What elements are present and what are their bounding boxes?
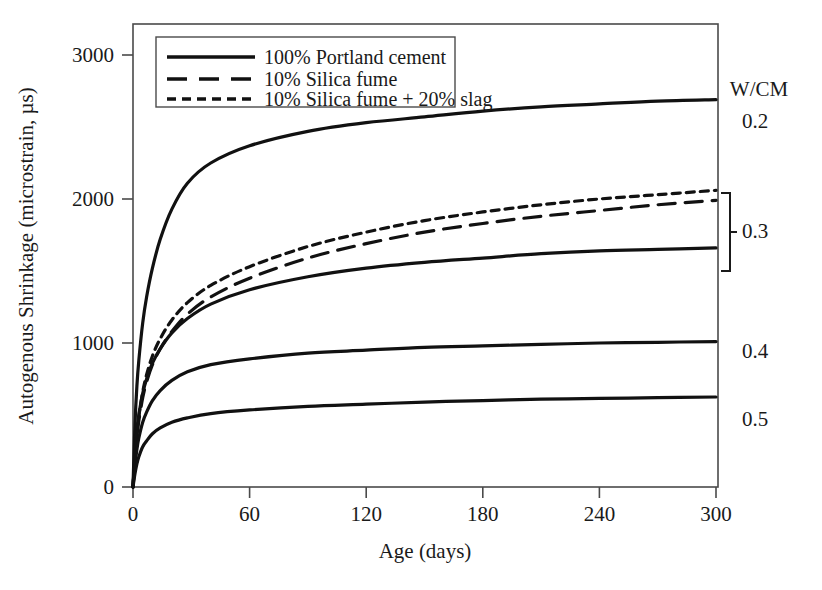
chart-figure: 0100020003000 060120180240300 Age (days)… — [0, 0, 822, 590]
y-tick-label: 1000 — [72, 331, 114, 355]
y-tick-label: 3000 — [72, 43, 114, 67]
curve-wcm-03-dotted — [133, 190, 716, 487]
y-tick-label: 0 — [104, 475, 115, 499]
x-tick-label: 180 — [467, 502, 499, 526]
x-tick-label: 240 — [584, 502, 616, 526]
y-axis-title: Autogenous Shrinkage (microstrain, µs) — [14, 87, 38, 425]
x-tick-label: 300 — [700, 502, 732, 526]
x-tick-label: 0 — [128, 502, 139, 526]
legend: 100% Portland cement10% Silica fume10% S… — [156, 37, 492, 111]
wcm-label-04: 0.4 — [742, 339, 769, 363]
wcm-label-05: 0.5 — [742, 407, 768, 431]
y-tick-label: 2000 — [72, 187, 114, 211]
y-axis-ticks: 0100020003000 — [72, 43, 133, 499]
legend-label: 100% Portland cement — [264, 46, 447, 68]
curve-wcm-05-solid — [133, 397, 716, 487]
wcm-annotations: W/CM 0.2 0.3 0.4 0.5 — [721, 77, 788, 431]
x-axis-title: Age (days) — [379, 539, 472, 563]
wcm-label-03: 0.3 — [742, 219, 768, 243]
wcm-label-02: 0.2 — [742, 109, 768, 133]
legend-label: 10% Silica fume + 20% slag — [264, 88, 492, 111]
wcm-group-bracket — [721, 193, 737, 271]
legend-label: 10% Silica fume — [264, 68, 397, 90]
wcm-group-header: W/CM — [730, 77, 789, 101]
curve-wcm-04-solid — [133, 342, 716, 487]
x-tick-label: 120 — [350, 502, 382, 526]
chart-canvas: 0100020003000 060120180240300 Age (days)… — [0, 0, 822, 590]
x-axis-ticks: 060120180240300 — [128, 487, 732, 526]
data-curves — [133, 100, 716, 487]
curve-wcm-03-solid — [133, 248, 716, 487]
x-tick-label: 60 — [239, 502, 260, 526]
